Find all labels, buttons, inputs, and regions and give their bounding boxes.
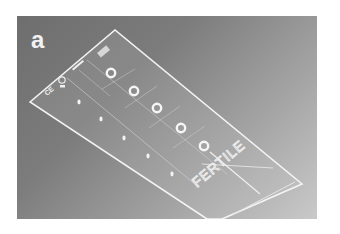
photo: a CE [17, 16, 317, 219]
glass-slide [30, 30, 302, 219]
slide-illustration: CE FERTILE [17, 16, 317, 219]
